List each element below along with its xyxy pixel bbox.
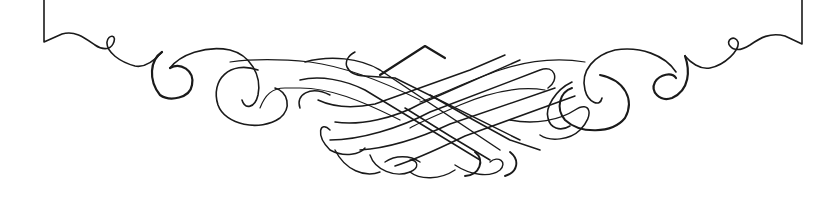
calligraphic-flourish-ornament — [0, 0, 834, 204]
right-scroll — [654, 56, 688, 99]
interlaced-lattice — [299, 46, 589, 166]
left-frame-line — [44, 0, 162, 66]
left-scroll — [152, 52, 192, 98]
right-frame-line — [685, 0, 802, 68]
